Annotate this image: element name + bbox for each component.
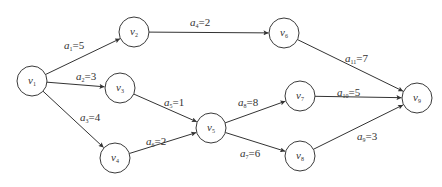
edge-a2 bbox=[47, 82, 105, 87]
edge-label-a7: a7=6 bbox=[240, 147, 261, 160]
aoe-network-diagram: v1v2v3v4v5v6v7v8v9 a1=5a2=3a3=4a4=2a5=1a… bbox=[0, 0, 442, 187]
edge-arrow bbox=[298, 40, 404, 92]
edge-arrow bbox=[313, 105, 403, 149]
node-v6: v6 bbox=[269, 18, 299, 48]
edge-a9 bbox=[313, 105, 403, 149]
edge-weight: =4 bbox=[89, 111, 101, 123]
node-v1: v1 bbox=[17, 66, 47, 96]
graph-canvas: v1v2v3v4v5v6v7v8v9 a1=5a2=3a3=4a4=2a5=1a… bbox=[0, 0, 442, 187]
edge-weight: =5 bbox=[73, 39, 85, 51]
edge-label-a6: a6=2 bbox=[146, 135, 166, 148]
edge-weight: =8 bbox=[247, 96, 259, 108]
node-subscript: 7 bbox=[301, 96, 304, 102]
node-subscript: 8 bbox=[301, 156, 304, 162]
edge-label-a2: a2=3 bbox=[76, 70, 97, 83]
edge-label-a3: a3=4 bbox=[80, 111, 101, 124]
node-v3: v3 bbox=[105, 73, 135, 103]
node-v9: v9 bbox=[402, 83, 432, 113]
node-v5: v5 bbox=[196, 113, 226, 143]
edge-label-a11: a11=7 bbox=[345, 52, 368, 65]
edge-weight: =3 bbox=[366, 130, 378, 142]
edge-label-a10: a10=5 bbox=[337, 86, 361, 99]
edge-label-a8: a8=8 bbox=[238, 96, 259, 109]
node-subscript: 6 bbox=[285, 33, 288, 39]
node-v8: v8 bbox=[285, 141, 315, 171]
edge-label-a9: a9=3 bbox=[357, 130, 378, 143]
edge-label-a1: a1=5 bbox=[64, 39, 85, 52]
node-v4: v4 bbox=[100, 143, 130, 173]
node-subscript: 5 bbox=[212, 128, 215, 134]
edge-a4 bbox=[149, 32, 269, 33]
edge-a11 bbox=[298, 40, 404, 92]
edge-label-a5: a5=1 bbox=[164, 96, 184, 109]
node-v2: v2 bbox=[119, 17, 149, 47]
edge-weight: =6 bbox=[249, 147, 261, 159]
edge-weight: =7 bbox=[356, 52, 368, 64]
edge-arrow bbox=[149, 32, 269, 33]
node-subscript: 1 bbox=[33, 81, 36, 87]
edge-weight: =3 bbox=[85, 70, 97, 82]
edge-weight: =5 bbox=[349, 86, 361, 98]
node-subscript: 4 bbox=[116, 158, 119, 164]
node-subscript: 9 bbox=[418, 98, 421, 104]
edge-weight: =1 bbox=[173, 96, 185, 108]
node-subscript: 3 bbox=[121, 88, 124, 94]
node-subscript: 2 bbox=[135, 32, 138, 38]
edge-label-a4: a4=2 bbox=[190, 16, 210, 29]
edge-weight: =2 bbox=[199, 16, 211, 28]
edge-weight: =2 bbox=[155, 135, 167, 147]
edge-arrow bbox=[47, 82, 105, 87]
node-v7: v7 bbox=[285, 81, 315, 111]
